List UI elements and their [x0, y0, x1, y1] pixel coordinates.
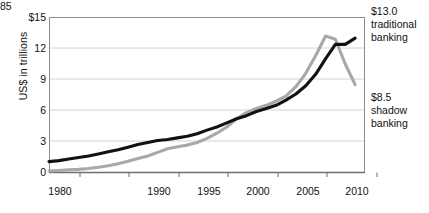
series-line-traditional-banking	[49, 38, 355, 161]
plot-frame	[50, 18, 365, 173]
gridlines	[49, 48, 365, 141]
plot-area	[0, 0, 429, 213]
series-line-shadow-banking	[49, 36, 355, 171]
chart-figure: US$ in trillions $15 12 9 6 3 0 1980 198…	[0, 0, 429, 213]
